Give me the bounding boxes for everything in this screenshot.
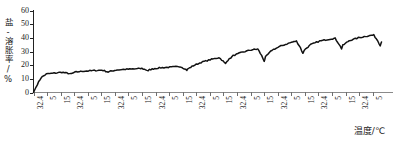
x-tick-label: 15 xyxy=(186,96,194,104)
x-tick-label: 32.4 xyxy=(240,96,248,109)
y-tick-label-wrap: 50 xyxy=(0,20,29,28)
x-tick-label: 5 xyxy=(91,96,99,100)
y-tick-label-wrap: 10 xyxy=(0,75,29,83)
x-tick-mark xyxy=(210,92,211,96)
x-tick-label: 15 xyxy=(267,96,275,104)
x-tick-label: 15 xyxy=(145,96,153,104)
x-tick-mark xyxy=(88,92,89,96)
x-tick-mark xyxy=(346,92,347,96)
x-tick-label: 15 xyxy=(226,96,234,104)
x-tick-mark xyxy=(61,92,62,96)
x-tick-label: 32.4 xyxy=(321,96,329,109)
x-tick-mark xyxy=(34,92,35,96)
y-tick-label-wrap: 40 xyxy=(0,34,29,42)
x-tick-label: 32.4 xyxy=(199,96,207,109)
x-tick-label: 5 xyxy=(172,96,180,100)
y-axis-line xyxy=(33,10,34,92)
y-tick-label: 20 xyxy=(21,61,29,69)
x-tick-label: 32.4 xyxy=(37,96,45,109)
x-tick-mark xyxy=(156,92,157,96)
x-tick-mark xyxy=(183,92,184,96)
x-tick-mark xyxy=(115,92,116,96)
x-tick-mark xyxy=(142,92,143,96)
x-tick-label: 32.4 xyxy=(77,96,85,109)
y-tick-label: 60 xyxy=(21,7,29,15)
x-tick-mark xyxy=(373,92,374,96)
x-tick-mark xyxy=(359,92,360,96)
x-tick-label: 5 xyxy=(335,96,343,100)
x-tick-mark xyxy=(305,92,306,96)
x-tick-label: 5 xyxy=(131,96,139,100)
x-axis-title: 温度/℃ xyxy=(354,124,385,137)
y-tick-label: 50 xyxy=(21,20,29,28)
x-tick-label: 32.4 xyxy=(159,96,167,109)
x-tick-label: 15 xyxy=(104,96,112,104)
x-tick-mark xyxy=(251,92,252,96)
x-tick-label: 15 xyxy=(349,96,357,104)
x-tick-mark xyxy=(332,92,333,96)
y-tick-label-wrap: 20 xyxy=(0,61,29,69)
x-tick-mark xyxy=(278,92,279,96)
y-tick-label-wrap: 0 xyxy=(0,89,29,97)
x-tick-label: 5 xyxy=(294,96,302,100)
x-tick-mark xyxy=(237,92,238,96)
x-tick-label: 32.4 xyxy=(362,96,370,109)
x-tick-label: 32.4 xyxy=(118,96,126,109)
y-tick-label-wrap: 30 xyxy=(0,48,29,56)
x-tick-label: 5 xyxy=(254,96,262,100)
x-tick-label: 5 xyxy=(376,96,384,100)
y-tick-label-wrap: 60 xyxy=(0,7,29,15)
x-tick-mark xyxy=(264,92,265,96)
y-tick-label: 0 xyxy=(25,89,29,97)
y-tick-label: 10 xyxy=(21,75,29,83)
data-series-line xyxy=(34,35,382,93)
y-tick-label: 40 xyxy=(21,34,29,42)
x-tick-label: 32.4 xyxy=(281,96,289,109)
x-tick-label: 5 xyxy=(50,96,58,100)
x-tick-label: 15 xyxy=(308,96,316,104)
y-tick-label: 30 xyxy=(21,48,29,56)
x-tick-label: 5 xyxy=(213,96,221,100)
x-tick-mark xyxy=(47,92,48,96)
x-tick-label: 15 xyxy=(64,96,72,104)
